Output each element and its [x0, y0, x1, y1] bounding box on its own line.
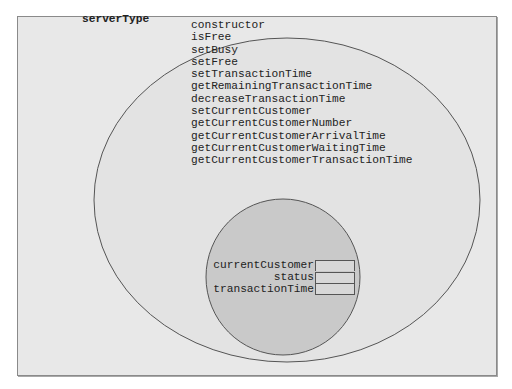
field-label: currentCustomer — [200, 259, 314, 271]
field-value-box — [315, 283, 355, 295]
method-item: decreaseTransactionTime — [191, 93, 413, 105]
method-item: getRemainingTransactionTime — [191, 80, 413, 92]
field-label: status — [200, 271, 314, 283]
method-list: constructor isFree setBusy setFree setTr… — [191, 19, 413, 167]
method-item: setFree — [191, 56, 413, 68]
class-name-label: serverType — [82, 13, 149, 25]
method-item: setTransactionTime — [191, 68, 413, 80]
field-list: currentCustomer status transactionTime — [200, 259, 355, 295]
field-row-status: status — [200, 271, 355, 283]
field-row-transaction-time: transactionTime — [200, 283, 355, 295]
method-item: isFree — [191, 31, 413, 43]
method-item: getCurrentCustomerNumber — [191, 117, 413, 129]
method-item: getCurrentCustomerArrivalTime — [191, 130, 413, 142]
field-value-box — [315, 272, 355, 283]
field-value-box — [315, 260, 355, 271]
method-item: setBusy — [191, 44, 413, 56]
method-item: getCurrentCustomerTransactionTime — [191, 154, 413, 166]
method-item: constructor — [191, 19, 413, 31]
method-item: setCurrentCustomer — [191, 105, 413, 117]
field-row-current-customer: currentCustomer — [200, 259, 355, 271]
method-item: getCurrentCustomerWaitingTime — [191, 142, 413, 154]
field-label: transactionTime — [200, 283, 314, 295]
